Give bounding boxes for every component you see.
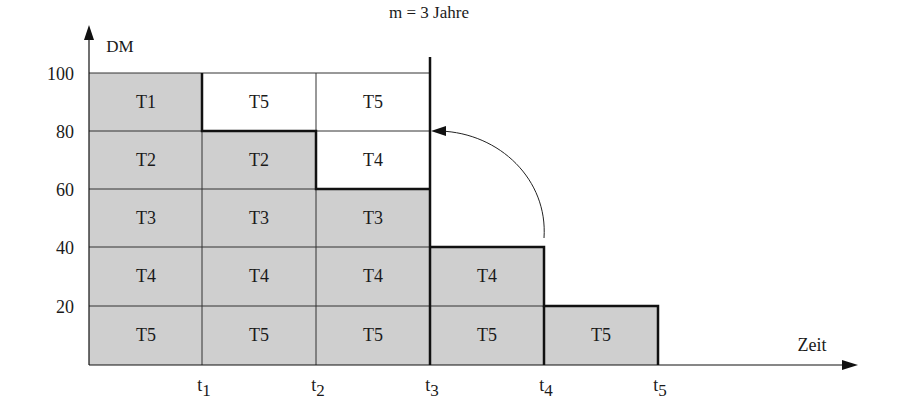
y-tick-40: 40 bbox=[56, 238, 74, 258]
y-tick-80: 80 bbox=[56, 122, 74, 142]
cell-label: T3 bbox=[249, 208, 269, 228]
arrowhead-icon bbox=[431, 126, 446, 136]
cell-label: T5 bbox=[477, 325, 497, 345]
x-tick-t3: t3 bbox=[425, 375, 439, 400]
x-tick-t4: t4 bbox=[539, 375, 553, 400]
x-tick-t5: t5 bbox=[653, 375, 667, 400]
cell-label: T3 bbox=[363, 208, 383, 228]
x-tick-t1: t1 bbox=[197, 375, 211, 400]
x-axis-arrow-icon bbox=[842, 360, 858, 370]
cell-label: T5 bbox=[249, 92, 269, 112]
cell-label: T5 bbox=[136, 325, 156, 345]
cell-label: T4 bbox=[363, 150, 383, 170]
cell-label: T3 bbox=[136, 208, 156, 228]
financing-diagram: m = 3 Jahre DM Zeit 100 80 60 40 20 t1 t… bbox=[0, 0, 904, 416]
y-tick-60: 60 bbox=[56, 180, 74, 200]
x-tick-t2: t2 bbox=[311, 375, 325, 400]
title: m = 3 Jahre bbox=[389, 3, 469, 22]
y-tick-20: 20 bbox=[56, 297, 74, 317]
y-tick-100: 100 bbox=[47, 64, 74, 84]
cell-label: T4 bbox=[363, 266, 383, 286]
cell-label: T5 bbox=[249, 325, 269, 345]
transfer-arrow bbox=[431, 126, 544, 238]
cell-label: T5 bbox=[363, 325, 383, 345]
y-axis-arrow-icon bbox=[84, 25, 94, 40]
cell-label: T4 bbox=[136, 266, 156, 286]
cell-label: T5 bbox=[591, 325, 611, 345]
cell-label: T2 bbox=[249, 150, 269, 170]
cell-label: T5 bbox=[363, 92, 383, 112]
cell-label: T2 bbox=[136, 150, 156, 170]
cell-label: T1 bbox=[136, 92, 156, 112]
x-axis-label: Zeit bbox=[798, 335, 827, 355]
y-axis-label: DM bbox=[106, 37, 133, 56]
cell-label: T4 bbox=[477, 266, 497, 286]
cell-label: T4 bbox=[249, 266, 269, 286]
